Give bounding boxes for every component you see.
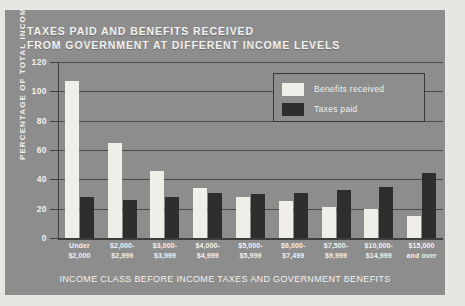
chart-title: TAXES PAID AND BENEFITS RECEIVED FROM GO… bbox=[27, 24, 340, 52]
x-axis-line bbox=[58, 238, 443, 240]
bar bbox=[208, 193, 222, 238]
x-tick-label: $3,000- $3,999 bbox=[144, 241, 187, 260]
bar bbox=[251, 194, 265, 238]
y-tick-80 bbox=[50, 121, 58, 122]
bar-group bbox=[144, 62, 187, 238]
y-tick-label-20: 20 bbox=[37, 204, 47, 214]
y-tick-20 bbox=[50, 209, 58, 210]
y-tick-label-100: 100 bbox=[32, 86, 47, 96]
y-tick-label-0: 0 bbox=[42, 233, 47, 243]
bar bbox=[108, 143, 122, 238]
x-tick-label: $5,000- $5,999 bbox=[229, 241, 272, 260]
y-tick-label-40: 40 bbox=[37, 174, 47, 184]
chart-legend: Benefits received Taxes paid bbox=[273, 73, 425, 122]
y-tick-40 bbox=[50, 179, 58, 180]
legend-item-benefits: Benefits received bbox=[282, 80, 416, 98]
bar bbox=[337, 190, 351, 238]
x-tick-label: $2,000- $2,999 bbox=[101, 241, 144, 260]
y-tick-120 bbox=[50, 62, 58, 63]
y-axis-title: PERCENTAGE OF TOTAL INCOME bbox=[18, 10, 27, 160]
bar bbox=[322, 207, 336, 238]
y-tick-label-120: 120 bbox=[32, 57, 47, 67]
legend-label-taxes: Taxes paid bbox=[314, 104, 358, 114]
bar-group bbox=[229, 62, 272, 238]
x-tick-label: $4,000- $4,999 bbox=[186, 241, 229, 260]
bar bbox=[422, 173, 436, 238]
bar-group bbox=[58, 62, 101, 238]
x-tick-label: $7,500- $9,999 bbox=[315, 241, 358, 260]
bar bbox=[364, 209, 378, 238]
bar bbox=[165, 197, 179, 238]
bar-group bbox=[186, 62, 229, 238]
y-tick-label-80: 80 bbox=[37, 116, 47, 126]
y-tick-100 bbox=[50, 91, 58, 92]
bar bbox=[150, 171, 164, 238]
x-axis-tick-labels: Under $2,000$2,000- $2,999$3,000- $3,999… bbox=[58, 241, 443, 265]
x-tick-label: $10,000- $14,999 bbox=[357, 241, 400, 260]
bar bbox=[294, 193, 308, 238]
y-tick-60 bbox=[50, 150, 58, 151]
x-axis-title: INCOME CLASS BEFORE INCOME TAXES AND GOV… bbox=[5, 274, 445, 284]
bar bbox=[123, 200, 137, 238]
legend-swatch-taxes bbox=[282, 103, 304, 116]
x-tick-label: $6,000- $7,499 bbox=[272, 241, 315, 260]
x-tick-label: Under $2,000 bbox=[58, 241, 101, 260]
bar bbox=[80, 197, 94, 238]
legend-swatch-benefits bbox=[282, 83, 304, 96]
y-tick-0 bbox=[50, 238, 58, 239]
bar-group bbox=[101, 62, 144, 238]
bar bbox=[193, 188, 207, 238]
bar bbox=[279, 201, 293, 238]
bar bbox=[407, 216, 421, 238]
bar bbox=[379, 187, 393, 238]
legend-item-taxes: Taxes paid bbox=[282, 100, 416, 118]
bar bbox=[236, 197, 250, 238]
legend-label-benefits: Benefits received bbox=[314, 84, 384, 94]
chart-panel: TAXES PAID AND BENEFITS RECEIVED FROM GO… bbox=[5, 10, 445, 295]
x-tick-label: $15,000 and over bbox=[400, 241, 443, 260]
y-tick-label-60: 60 bbox=[37, 145, 47, 155]
bar bbox=[65, 81, 79, 238]
